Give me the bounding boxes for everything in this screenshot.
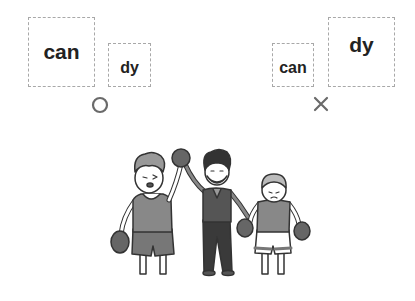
loser-boxer: [237, 174, 310, 274]
cross-icon: [312, 95, 330, 113]
word-part-box-big: can: [28, 17, 95, 87]
word-part-text: can: [43, 40, 79, 64]
winner-boxer: [111, 152, 181, 274]
word-part-text: can: [279, 59, 307, 77]
word-part-text: dy: [120, 59, 139, 77]
circle-icon: [90, 95, 110, 115]
raised-glove: [172, 149, 190, 167]
word-part-box-small: dy: [108, 43, 151, 87]
referee: [185, 150, 248, 276]
boxing-illustration: [105, 142, 320, 282]
word-part-text: dy: [349, 33, 374, 57]
word-part-box-small: can: [272, 43, 314, 87]
word-part-box-big: dy: [328, 17, 395, 87]
